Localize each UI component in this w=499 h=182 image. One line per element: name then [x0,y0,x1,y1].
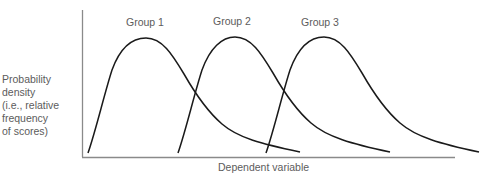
curve-group-2 [178,37,390,153]
legend-group-1: Group 1 [126,16,164,28]
curve-group-3 [266,37,479,153]
x-axis-label: Dependent variable [218,161,309,173]
legend-group-2: Group 2 [213,15,251,27]
plot-area [0,0,499,182]
legend-group-3: Group 3 [301,16,339,28]
